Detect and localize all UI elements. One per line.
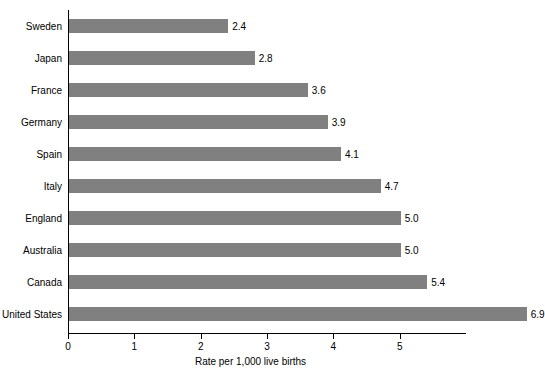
bar: [69, 115, 328, 129]
bar-value-label: 6.9: [527, 309, 545, 320]
x-tick: [267, 334, 268, 339]
bar-row: Germany3.9: [68, 106, 466, 138]
bar-row: England5.0: [68, 202, 466, 234]
category-label: Canada: [27, 277, 62, 288]
bar-value-label: 5.4: [427, 277, 445, 288]
bar-value-label: 2.8: [255, 53, 273, 64]
x-tick-label: 4: [331, 341, 337, 352]
x-tick: [68, 334, 69, 339]
bar-row: United States6.9: [68, 298, 466, 330]
bar-value-label: 3.9: [328, 117, 346, 128]
category-label: Germany: [21, 117, 62, 128]
x-tick-label: 3: [264, 341, 270, 352]
category-label: Spain: [36, 149, 62, 160]
bar: [69, 307, 527, 321]
bar-value-label: 3.6: [308, 85, 326, 96]
bar-value-label: 5.0: [401, 213, 419, 224]
bar: [69, 19, 228, 33]
bar-value-label: 4.1: [341, 149, 359, 160]
bar: [69, 211, 401, 225]
bar-row: Australia5.0: [68, 234, 466, 266]
bar-value-label: 5.0: [401, 245, 419, 256]
bar: [69, 243, 401, 257]
bar: [69, 179, 381, 193]
x-tick: [400, 334, 401, 339]
bar-value-label: 2.4: [228, 21, 246, 32]
category-label: France: [31, 85, 62, 96]
category-label: England: [25, 213, 62, 224]
x-tick: [134, 334, 135, 339]
bar-row: Canada5.4: [68, 266, 466, 298]
x-tick-label: 5: [397, 341, 403, 352]
x-tick-label: 0: [65, 341, 71, 352]
category-label: Italy: [44, 181, 62, 192]
bar-row: Italy4.7: [68, 170, 466, 202]
bar-row: Sweden2.4: [68, 10, 466, 42]
x-tick: [333, 334, 334, 339]
bar-row: France3.6: [68, 74, 466, 106]
x-axis-title: Rate per 1,000 live births: [0, 356, 501, 367]
bar: [69, 147, 341, 161]
category-label: Japan: [35, 53, 62, 64]
bar-value-label: 4.7: [381, 181, 399, 192]
bar-row: Japan2.8: [68, 42, 466, 74]
bar: [69, 275, 427, 289]
category-label: Australia: [23, 245, 62, 256]
category-label: Sweden: [26, 21, 62, 32]
x-tick: [201, 334, 202, 339]
plot-area: Sweden2.4Japan2.8France3.6Germany3.9Spai…: [68, 10, 466, 330]
bar-row: Spain4.1: [68, 138, 466, 170]
category-label: United States: [2, 309, 62, 320]
x-tick-label: 1: [132, 341, 138, 352]
x-tick-label: 2: [198, 341, 204, 352]
bar: [69, 83, 308, 97]
bar: [69, 51, 255, 65]
